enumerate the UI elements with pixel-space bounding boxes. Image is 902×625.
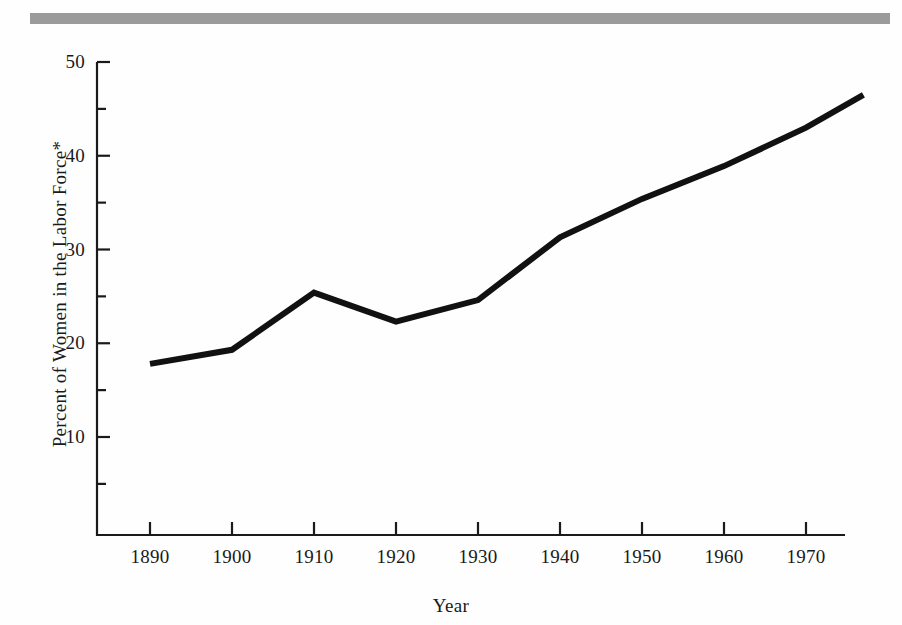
x-tick-label: 1950: [622, 546, 661, 568]
x-tick-label: 1910: [294, 546, 333, 568]
data-series-line: [150, 95, 863, 364]
chart-svg: [0, 30, 902, 625]
x-tick-label: 1940: [540, 546, 579, 568]
x-tick-label: 1970: [786, 546, 825, 568]
x-axis-ticks: [150, 522, 806, 535]
x-tick-label: 1960: [704, 546, 743, 568]
x-tick-label: 1930: [458, 546, 497, 568]
page-canvas: 1020304050 18901900191019201930194019501…: [0, 0, 902, 625]
line-chart-figure: 1020304050 18901900191019201930194019501…: [0, 30, 902, 625]
x-tick-label: 1900: [212, 546, 251, 568]
top-gray-rule: [30, 13, 890, 24]
axis-spine: [97, 62, 845, 535]
y-axis-ticks: [97, 62, 110, 484]
x-tick-label: 1920: [376, 546, 415, 568]
x-tick-label: 1890: [130, 546, 169, 568]
x-axis-title: Year: [0, 595, 902, 617]
y-axis-title: Percent of Women in the Labor Force*: [49, 34, 71, 554]
